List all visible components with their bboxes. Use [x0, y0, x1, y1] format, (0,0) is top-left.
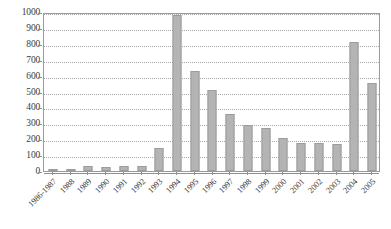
y-tick-label: 900 [4, 24, 40, 34]
y-tick-label: 600 [4, 72, 40, 82]
y-tick-mark [38, 45, 42, 46]
bar [208, 90, 217, 171]
bar-slot [44, 14, 62, 171]
bar-slot [115, 14, 133, 171]
y-tick-label: 1000 [4, 8, 40, 18]
bar [66, 169, 75, 171]
x-tick-mark [265, 172, 266, 175]
bar [102, 167, 111, 171]
x-tick-mark [141, 172, 142, 175]
bar-slot [133, 14, 151, 171]
bar-slot [79, 14, 97, 171]
x-tick-mark [371, 172, 372, 175]
bar [314, 143, 323, 171]
y-tick-mark [38, 13, 42, 14]
y-tick-mark [38, 124, 42, 125]
bar-slot [97, 14, 115, 171]
bar [297, 143, 306, 171]
bar [368, 83, 377, 171]
bar [190, 71, 199, 171]
x-tick-mark [194, 172, 195, 175]
y-tick-label: 700 [4, 56, 40, 66]
x-tick-mark [176, 172, 177, 175]
x-tick-mark [318, 172, 319, 175]
bar-slot [168, 14, 186, 171]
y-tick-mark [38, 61, 42, 62]
bar [332, 144, 341, 171]
y-tick-label: 500 [4, 88, 40, 98]
y-tick-label: 200 [4, 135, 40, 145]
y-tick-mark [38, 29, 42, 30]
bar-slot [150, 14, 168, 171]
y-tick-mark [38, 172, 42, 173]
x-tick-mark [70, 172, 71, 175]
y-tick-label: 100 [4, 151, 40, 161]
bar-slot [186, 14, 204, 171]
bar-slot [310, 14, 328, 171]
bar [243, 125, 252, 171]
y-tick-label: 400 [4, 103, 40, 113]
y-tick-mark [38, 108, 42, 109]
bar [279, 138, 288, 171]
bar [261, 128, 270, 171]
bar [84, 166, 93, 171]
bar [155, 148, 164, 171]
y-tick-mark [38, 77, 42, 78]
bar [350, 42, 359, 171]
x-tick-mark [247, 172, 248, 175]
bar-slot [275, 14, 293, 171]
y-tick-mark [38, 140, 42, 141]
x-tick-mark [158, 172, 159, 175]
x-tick-mark [87, 172, 88, 175]
y-tick-mark [38, 93, 42, 94]
bar [226, 114, 235, 171]
plot-area [43, 13, 380, 172]
bar [137, 166, 146, 171]
x-tick-mark [229, 172, 230, 175]
x-tick-mark [105, 172, 106, 175]
bar-slot [363, 14, 381, 171]
x-tick-mark [123, 172, 124, 175]
x-tick-mark [300, 172, 301, 175]
x-tick-mark [212, 172, 213, 175]
bar [173, 15, 182, 171]
bar [48, 169, 57, 171]
bar-slot [204, 14, 222, 171]
bar-slot [292, 14, 310, 171]
y-tick-label: 800 [4, 40, 40, 50]
y-tick-label: 300 [4, 119, 40, 129]
x-axis: 1986-19871988198919901991199219931994199… [43, 172, 380, 229]
bar-slot [221, 14, 239, 171]
y-tick-mark [38, 156, 42, 157]
bar-slot [62, 14, 80, 171]
bar-slot [328, 14, 346, 171]
y-tick-label: 0 [4, 167, 40, 177]
bar-chart-figure: 1986-19871988198919901991199219931994199… [0, 0, 391, 229]
bar-slot [257, 14, 275, 171]
x-tick-mark [282, 172, 283, 175]
x-tick-mark [52, 172, 53, 175]
x-tick-mark [336, 172, 337, 175]
bar-slot [346, 14, 364, 171]
x-tick-mark [353, 172, 354, 175]
bar-slot [239, 14, 257, 171]
bars-layer [44, 14, 379, 171]
bar [119, 166, 128, 171]
